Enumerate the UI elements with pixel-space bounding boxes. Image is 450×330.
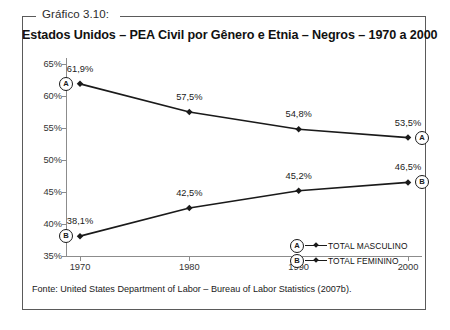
legend-line-swatch-icon xyxy=(304,255,328,267)
data-point-marker xyxy=(186,205,193,212)
y-axis-tick xyxy=(62,128,67,129)
data-point-marker xyxy=(405,134,412,141)
data-label: 57,5% xyxy=(176,92,202,102)
y-axis-tick-label: 35% xyxy=(36,251,62,261)
data-point-marker xyxy=(295,126,302,133)
legend-marker-a-icon: A xyxy=(290,239,304,253)
x-axis-tick xyxy=(408,256,409,261)
series-endpoint-marker-b: B xyxy=(59,229,73,243)
data-point-marker xyxy=(295,187,302,194)
data-label: 42,5% xyxy=(176,188,202,198)
series-line-a xyxy=(80,84,408,138)
data-label: 54,8% xyxy=(285,109,311,119)
legend-label-total-masculino: TOTAL MASCULINO xyxy=(328,241,408,251)
data-point-marker xyxy=(186,109,193,116)
legend-marker-b-icon: B xyxy=(290,254,304,268)
figure-caption: Gráfico 3.10: xyxy=(39,8,112,20)
y-axis-tick xyxy=(62,192,67,193)
data-point-marker xyxy=(405,179,412,186)
y-axis-tick-label: 45% xyxy=(36,187,62,197)
frame-border-top-right xyxy=(120,16,426,17)
y-axis-tick-label: 55% xyxy=(36,123,62,133)
series-endpoint-marker-a: A xyxy=(415,131,429,145)
data-point-marker xyxy=(77,81,84,88)
frame-border-bottom xyxy=(22,309,426,310)
y-axis-tick-label: 50% xyxy=(36,155,62,165)
frame-border-right xyxy=(425,16,426,310)
data-label: 38,1% xyxy=(67,216,93,226)
data-label: 45,2% xyxy=(285,171,311,181)
x-axis-tick xyxy=(189,256,190,261)
series-endpoint-marker-a: A xyxy=(59,77,73,91)
data-label: 53,5% xyxy=(395,118,421,128)
legend-item-total-masculino: A TOTAL MASCULINO xyxy=(290,238,408,253)
y-axis-tick xyxy=(62,256,67,257)
data-label: 61,9% xyxy=(67,64,93,74)
data-point-marker xyxy=(77,233,84,240)
x-axis-tick-label: 1980 xyxy=(179,262,200,272)
source-note: Fonte: United States Department of Labor… xyxy=(32,284,351,294)
chart-title: Estados Unidos – PEA Civil por Gênero e … xyxy=(22,28,426,42)
series-line-b xyxy=(80,182,408,236)
y-axis-tick-label: 60% xyxy=(36,91,62,101)
y-axis-tick-label: 40% xyxy=(36,219,62,229)
y-axis-tick xyxy=(62,160,67,161)
legend-line-swatch-icon xyxy=(304,240,328,252)
y-axis-tick xyxy=(62,96,67,97)
chart-legend: A TOTAL MASCULINO B TOTAL FEMININO xyxy=(290,238,408,268)
legend-label-total-feminino: TOTAL FEMININO xyxy=(328,256,399,266)
chart-figure: Gráfico 3.10: Estados Unidos – PEA Civil… xyxy=(22,16,426,310)
series-endpoint-marker-b: B xyxy=(415,175,429,189)
frame-border-top-left xyxy=(22,16,36,17)
x-axis-tick xyxy=(80,256,81,261)
frame-border-left xyxy=(22,16,23,310)
y-axis-tick-label: 65% xyxy=(36,59,62,69)
data-label: 46,5% xyxy=(395,162,421,172)
x-axis-tick-label: 1970 xyxy=(70,262,91,272)
legend-item-total-feminino: B TOTAL FEMININO xyxy=(290,253,408,268)
